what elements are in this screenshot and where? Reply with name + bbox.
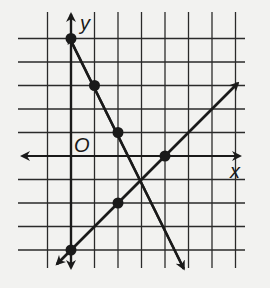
data-point <box>113 127 124 138</box>
y-axis-label: y <box>78 12 91 34</box>
x-axis-label: x <box>229 160 241 182</box>
line-2 <box>57 83 238 264</box>
coordinate-graph: y x O <box>0 0 270 288</box>
data-point <box>89 80 100 91</box>
data-point <box>66 245 77 256</box>
grid-lines <box>18 12 245 268</box>
origin-label: O <box>74 134 90 156</box>
data-point <box>160 151 171 162</box>
data-point <box>113 198 124 209</box>
data-point <box>66 33 77 44</box>
